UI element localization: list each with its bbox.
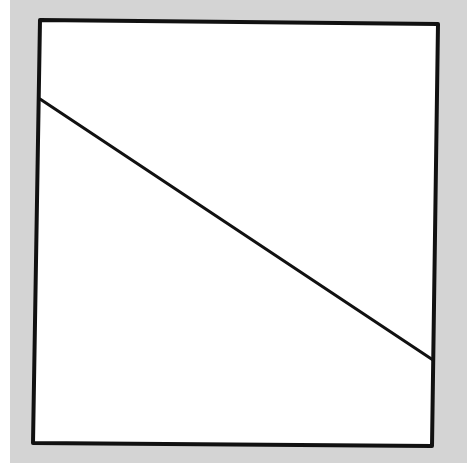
- diagram-canvas: [0, 0, 467, 463]
- square-outline: [33, 20, 438, 446]
